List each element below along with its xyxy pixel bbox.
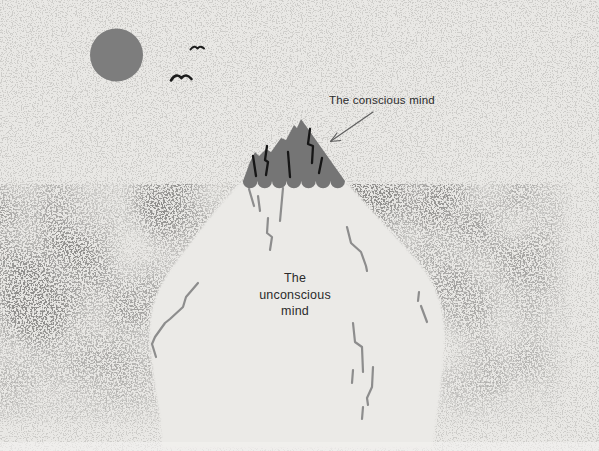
iceberg-illustration — [0, 0, 599, 451]
unconscious-label-line-3: mind — [245, 303, 345, 320]
sun-icon — [90, 29, 143, 82]
unconscious-label-line-1: The — [245, 270, 345, 287]
bottom-edge — [0, 442, 599, 451]
illustration-canvas: The conscious mind The unconscious mind — [0, 0, 599, 451]
conscious-mind-label: The conscious mind — [329, 94, 435, 106]
unconscious-mind-label: The unconscious mind — [245, 270, 345, 320]
unconscious-label-line-2: unconscious — [245, 287, 345, 304]
